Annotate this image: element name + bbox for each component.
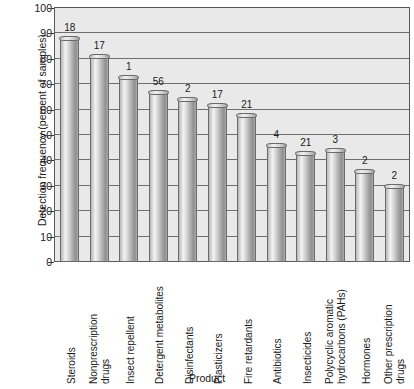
y-axis-tick-label: 30 (0, 180, 52, 192)
y-axis-tick-mark (48, 186, 54, 187)
bar[interactable] (296, 153, 315, 262)
bar-slot[interactable] (114, 8, 144, 262)
y-axis-tick-mark (48, 135, 54, 136)
bar-value-label: 2 (173, 83, 203, 94)
y-axis-tick-label: 80 (0, 53, 52, 65)
y-axis-tick-mark (48, 33, 54, 34)
bar-top-ellipse (325, 148, 346, 153)
x-axis-tick-label: Fire retardants (243, 264, 255, 384)
y-axis-tick-label: 90 (0, 27, 52, 39)
x-axis-tick-label: Nonprescription drugs (88, 264, 111, 384)
bar[interactable] (355, 171, 374, 262)
bar-top-ellipse (118, 75, 139, 80)
x-axis-tick-mark (144, 261, 149, 262)
x-axis-tick-mark (380, 261, 385, 262)
x-axis-tick-label: Antibiotics (272, 264, 284, 384)
bar-top-ellipse (177, 97, 198, 102)
bar-value-label: 17 (85, 40, 115, 51)
x-axis-tick-mark (114, 261, 119, 262)
x-axis-tick-label: Insect repellent (125, 264, 137, 384)
bar-slot[interactable] (203, 8, 233, 262)
x-axis-tick-mark (291, 261, 296, 262)
x-axis-tick-mark (85, 261, 90, 262)
x-axis-tick-label: Polycyclic aromatic hydrocarbons (PAHs) (324, 264, 347, 384)
bar-top-ellipse (384, 184, 405, 189)
bar-value-label: 18 (55, 22, 85, 33)
bar-top-ellipse (148, 90, 169, 95)
y-axis-tick-label: 20 (0, 205, 52, 217)
bar-value-label: 3 (321, 134, 351, 145)
bar-value-label: 56 (144, 76, 174, 87)
y-axis-tick-mark (48, 237, 54, 238)
y-axis-tick-mark (48, 262, 54, 263)
x-axis-tick-mark (55, 261, 60, 262)
x-axis-tick-labels: SteroidsNonprescription drugsInsect repe… (55, 264, 409, 384)
bar[interactable] (267, 145, 286, 262)
bar-slot[interactable] (232, 8, 262, 262)
bar-top-ellipse (59, 36, 80, 41)
y-axis-tick-label: 40 (0, 154, 52, 166)
x-axis-tick-label: Disinfectants (184, 264, 196, 384)
bar-slot[interactable] (55, 8, 85, 262)
bar-slot[interactable] (291, 8, 321, 262)
x-axis-tick-label: Hormones (361, 264, 373, 384)
x-axis-tick-mark (262, 261, 267, 262)
x-axis-tick-mark (173, 261, 178, 262)
y-axis-tick-mark (48, 160, 54, 161)
bar-top-ellipse (89, 54, 110, 59)
bar-value-label: 21 (291, 137, 321, 148)
y-axis-tick-label: 0 (0, 256, 52, 268)
bar-value-label: 21 (232, 99, 262, 110)
bar[interactable] (119, 77, 138, 262)
bar[interactable] (178, 99, 197, 262)
y-axis-tick-label: 50 (0, 129, 52, 141)
y-axis-tick-mark (48, 211, 54, 212)
bar-slot[interactable] (173, 8, 203, 262)
y-axis-tick-mark (48, 84, 54, 85)
bar-value-label: 1 (114, 61, 144, 72)
y-axis-tick-mark (48, 110, 54, 111)
bar-top-ellipse (266, 143, 287, 148)
x-axis-tick-mark (350, 261, 355, 262)
bar-value-label: 2 (350, 155, 380, 166)
y-axis-tick-mark (48, 8, 54, 9)
chart-root: Detection frequency (percent of samples)… (0, 0, 414, 389)
bar-top-ellipse (354, 169, 375, 174)
bar-slot[interactable] (144, 8, 174, 262)
bar[interactable] (326, 150, 345, 262)
x-axis-tick-label: Other prescription drugs (383, 264, 406, 384)
bar-value-label: 4 (262, 129, 292, 140)
y-axis-tick-label: 10 (0, 231, 52, 243)
bar[interactable] (90, 56, 109, 262)
bar-top-ellipse (236, 113, 257, 118)
x-axis-tick-mark (321, 261, 326, 262)
bar-slot[interactable] (380, 8, 410, 262)
bar-series: 181715621721421322 (55, 8, 409, 262)
x-axis-tick-mark (232, 261, 237, 262)
bar-top-ellipse (207, 103, 228, 108)
bar[interactable] (60, 38, 79, 262)
bar[interactable] (208, 105, 227, 262)
y-axis-tick-mark (48, 59, 54, 60)
x-axis-tick-label: Detergent metabolites (154, 264, 166, 384)
bar-top-ellipse (295, 151, 316, 156)
bar[interactable] (149, 92, 168, 262)
x-axis-tick-mark (203, 261, 208, 262)
bar-value-label: 17 (203, 89, 233, 100)
y-axis-tick-label: 60 (0, 104, 52, 116)
x-axis-tick-label: Plasticizers (213, 264, 225, 384)
y-axis-tick-label: 70 (0, 78, 52, 90)
y-axis-tick-label: 100 (0, 2, 52, 14)
bar[interactable] (385, 186, 404, 262)
x-axis-title: Product (0, 372, 414, 384)
x-axis-tick-label: Insecticides (302, 264, 314, 384)
bar-slot[interactable] (350, 8, 380, 262)
x-axis-tick-label: Steroids (66, 264, 78, 384)
bar-value-label: 2 (380, 170, 410, 181)
bar[interactable] (237, 115, 256, 262)
